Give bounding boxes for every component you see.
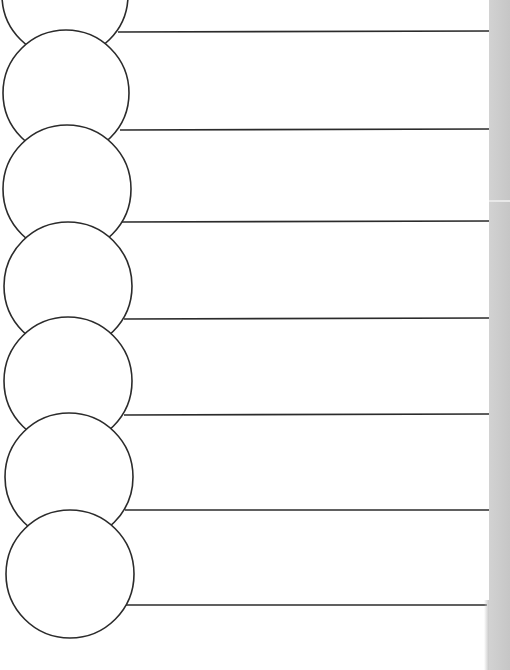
writing-line-3[interactable] [122, 221, 489, 222]
page-edge-shadow [489, 0, 510, 670]
worksheet-chain-organizer [0, 0, 510, 670]
edge-shadow-flare [484, 600, 489, 670]
writing-line-4[interactable] [124, 318, 489, 319]
edge-notch [489, 200, 510, 202]
writing-line-5[interactable] [124, 414, 489, 415]
writing-line-1[interactable] [118, 31, 489, 32]
chain-circle-7[interactable] [6, 510, 134, 638]
writing-line-2[interactable] [120, 129, 489, 130]
